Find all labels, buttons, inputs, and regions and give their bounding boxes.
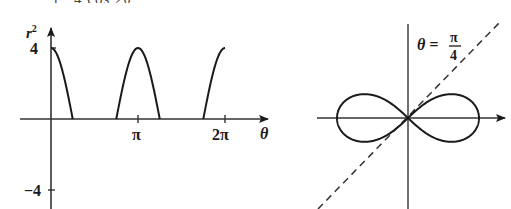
curve-segment-1 — [51, 48, 73, 119]
x-tick-label-2pi: 2π — [212, 126, 229, 143]
curve-segment-3 — [203, 48, 225, 119]
y-axis-label: r2 — [26, 23, 37, 41]
x-tick-label-pi: π — [132, 126, 141, 143]
plots-svg: r2 4 −4 π 2π θ θ = π 4 — [0, 0, 511, 209]
y-tick-label-neg4: −4 — [24, 182, 41, 199]
dashed-line-theta-pi-over-4 — [318, 22, 500, 209]
fraction-denominator-4: 4 — [450, 48, 457, 63]
figure: r 4 cos 2θ r2 4 −4 π — [0, 0, 511, 209]
y-tick-label-4: 4 — [30, 40, 38, 57]
fraction-numerator-pi: π — [450, 30, 458, 45]
x-axis-label: θ — [260, 125, 269, 142]
theta-equals-label: θ = — [417, 36, 438, 53]
cartesian-chart: r2 4 −4 π 2π θ — [20, 23, 269, 209]
curve-segment-2 — [116, 48, 160, 119]
polar-chart: θ = π 4 — [317, 22, 505, 209]
